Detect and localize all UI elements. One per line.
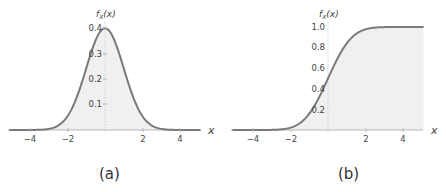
x-tick-2: 2 xyxy=(140,134,145,144)
y-tick-0.6: 0.6 xyxy=(311,63,325,73)
y-axis-label: fX(x) xyxy=(319,9,339,20)
x-tick--4: −4 xyxy=(247,134,260,144)
x-tick--4: −4 xyxy=(24,134,37,144)
caption-b: (b) xyxy=(338,165,359,183)
x-tick-4: 4 xyxy=(400,134,405,144)
y-tick-1.0: 1.0 xyxy=(311,22,325,32)
y-tick-0.3: 0.3 xyxy=(88,49,102,59)
x-tick--2: −2 xyxy=(285,134,298,144)
y-tick-0.1: 0.1 xyxy=(88,99,102,109)
y-axis-label: fX(x) xyxy=(96,9,116,20)
x-axis-label: x xyxy=(430,124,438,137)
x-tick-2: 2 xyxy=(363,134,368,144)
x-axis-label: x xyxy=(207,124,215,137)
y-tick-0.2: 0.2 xyxy=(88,74,102,84)
y-tick-0.4: 0.4 xyxy=(311,84,325,94)
chart-a: 0.1 0.2 0.3 0.4 −4 −2 2 4 x fX(x) xyxy=(0,0,223,150)
caption-a: (a) xyxy=(99,165,120,183)
x-tick--2: −2 xyxy=(62,134,75,144)
x-tick-labels: −4 −2 2 4 xyxy=(24,134,183,144)
chart-b: 0.2 0.4 0.6 0.8 1.0 −4 −2 2 4 x fX(x) xyxy=(223,0,446,150)
y-tick-0.4: 0.4 xyxy=(88,23,102,33)
y-tick-0.2: 0.2 xyxy=(311,105,325,115)
x-tick-labels: −4 −2 2 4 xyxy=(247,134,406,144)
y-tick-0.8: 0.8 xyxy=(311,42,325,52)
x-tick-4: 4 xyxy=(177,134,182,144)
